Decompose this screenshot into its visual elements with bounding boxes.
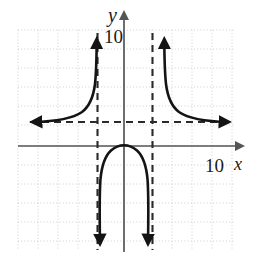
graph-canvas <box>0 0 261 257</box>
function-curves <box>33 40 228 243</box>
y-axis-tick-label-10: 10 <box>104 27 123 46</box>
x-axis-label: x <box>234 155 242 173</box>
graph-figure: y x 10 10 <box>0 0 261 257</box>
curve-right-branch <box>164 40 228 122</box>
axes <box>18 12 243 252</box>
curve-left-branch <box>33 40 97 122</box>
y-axis-label: y <box>108 5 117 25</box>
asymptote-lines <box>30 33 232 250</box>
grid-lines <box>18 30 235 250</box>
x-axis-tick-label-10: 10 <box>205 156 224 175</box>
